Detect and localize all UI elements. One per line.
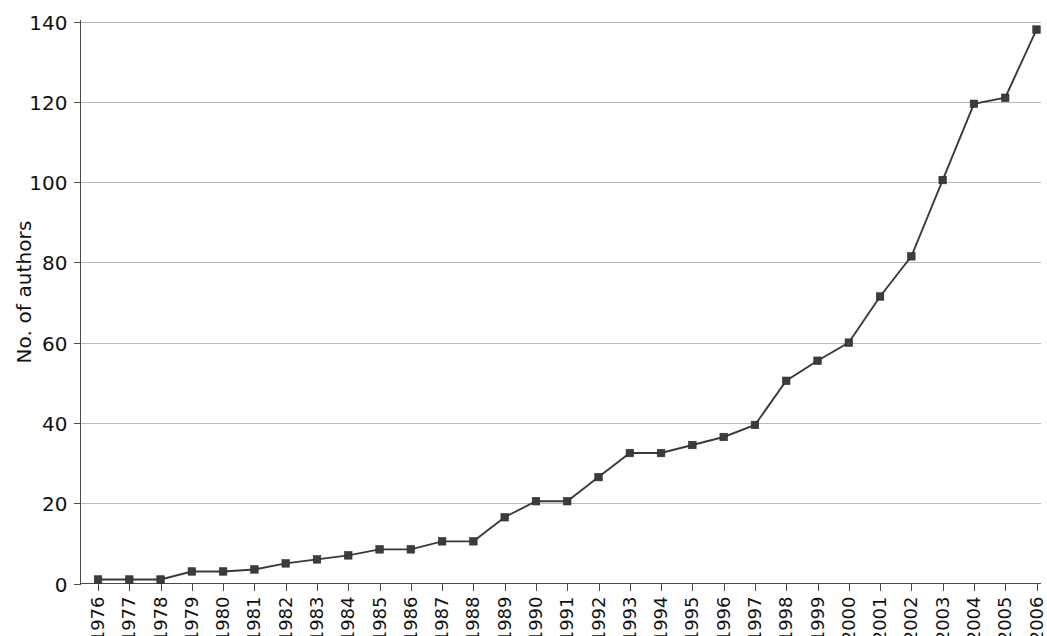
x-axis-tick-label: 2004 <box>963 597 984 636</box>
x-axis-tick-label: 1981 <box>243 597 264 636</box>
gridline-group <box>81 23 1042 504</box>
y-axis-tick-label: 0 <box>55 573 68 597</box>
data-point-marker <box>751 421 759 429</box>
y-axis-tick-group: 020406080100120140 <box>29 11 80 597</box>
x-axis-tick-label: 1987 <box>431 597 452 636</box>
data-point-marker <box>908 253 916 261</box>
x-axis-tick-label: 1994 <box>650 597 671 636</box>
data-point-marker <box>470 538 478 546</box>
x-axis-tick-label: 2002 <box>900 597 921 636</box>
x-axis-tick-label: 2005 <box>994 597 1015 636</box>
data-point-marker <box>94 576 102 584</box>
chart-container: No. of authors 020406080100120140 197619… <box>0 0 1047 636</box>
data-point-marker <box>407 546 415 554</box>
x-axis-tick-label: 1997 <box>744 597 765 636</box>
x-axis-tick-label: 2000 <box>838 597 859 636</box>
x-axis-tick-label: 1991 <box>556 597 577 636</box>
y-axis-tick-label: 60 <box>42 332 67 356</box>
x-axis-tick-label: 2006 <box>1026 597 1047 636</box>
y-axis-tick-label: 140 <box>29 11 67 35</box>
data-point-marker <box>219 568 227 576</box>
data-point-marker <box>188 568 196 576</box>
data-point-marker <box>626 449 634 457</box>
data-point-marker <box>126 576 134 584</box>
data-point-marker <box>157 576 165 584</box>
x-axis-tick-label: 1979 <box>181 597 202 636</box>
data-point-marker <box>345 552 353 560</box>
x-axis-tick-label: 1995 <box>681 597 702 636</box>
data-point-marker <box>720 433 728 441</box>
data-series-line <box>98 30 1037 580</box>
data-point-marker <box>532 497 540 505</box>
data-point-marker <box>939 176 947 184</box>
x-axis-tick-label: 1990 <box>525 597 546 636</box>
data-point-marker <box>814 357 822 365</box>
x-axis-tick-label: 1999 <box>807 597 828 636</box>
data-point-marker <box>501 514 509 522</box>
x-axis-tick-label: 1988 <box>462 597 483 636</box>
data-point-marker <box>282 560 290 568</box>
line-chart-plot: 020406080100120140 197619771978197919801… <box>0 0 1047 636</box>
x-axis-tick-group <box>99 584 1038 591</box>
x-axis-tick-label: 1976 <box>87 597 108 636</box>
data-point-marker <box>595 473 603 481</box>
y-axis-tick-label: 80 <box>42 251 67 275</box>
data-point-marker <box>1033 26 1041 33</box>
x-axis-tick-label: 1983 <box>306 597 327 636</box>
data-point-marker-group <box>94 26 1040 583</box>
data-point-marker <box>970 100 978 108</box>
data-point-marker <box>313 556 321 564</box>
data-point-marker <box>251 566 258 574</box>
y-axis-tick-label: 120 <box>29 91 67 115</box>
x-axis-tick-label: 1980 <box>212 597 233 636</box>
x-axis-tick-label: 1977 <box>118 597 139 636</box>
data-point-marker <box>657 449 665 457</box>
x-axis-tick-label: 1998 <box>775 597 796 636</box>
x-axis-tick-label: 1984 <box>337 597 358 636</box>
y-axis-tick-label: 40 <box>42 412 67 436</box>
y-axis-tick-label: 100 <box>29 171 67 195</box>
x-axis-tick-label: 1985 <box>369 597 390 636</box>
data-point-marker <box>564 497 572 505</box>
data-point-marker <box>876 293 884 301</box>
x-axis-tick-label: 1996 <box>713 597 734 636</box>
data-point-marker <box>782 377 790 385</box>
data-point-marker <box>438 538 446 546</box>
data-point-marker <box>845 339 853 347</box>
data-point-marker <box>689 441 697 449</box>
x-axis-tick-label: 1986 <box>400 597 421 636</box>
y-axis-tick-label: 20 <box>42 492 67 516</box>
x-axis-tick-label: 1992 <box>588 597 609 636</box>
x-axis-tick-label: 1982 <box>275 597 296 636</box>
x-axis-label-group: 1976197719781979198019811982198319841985… <box>87 597 1047 636</box>
x-axis-tick-label: 1978 <box>150 597 171 636</box>
x-axis-tick-label: 2003 <box>932 597 953 636</box>
data-point-marker <box>376 546 384 554</box>
x-axis-tick-label: 2001 <box>869 597 890 636</box>
x-axis-tick-label: 1989 <box>494 597 515 636</box>
data-point-marker <box>1001 94 1009 102</box>
x-axis-tick-label: 1993 <box>619 597 640 636</box>
